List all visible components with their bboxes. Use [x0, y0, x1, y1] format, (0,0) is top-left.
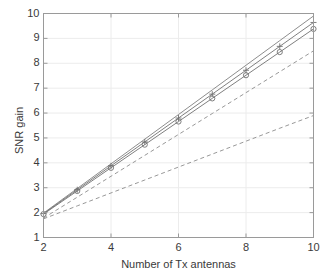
y-tick-label: 2: [33, 207, 39, 218]
marker-plus: [277, 43, 283, 49]
y-tick-label: 10: [27, 8, 39, 19]
snr-gain-chart: 12345678910 246810 SNR gain Number of Tx…: [0, 0, 335, 276]
x-tick-label: 2: [40, 242, 46, 253]
y-tick-label: 6: [33, 107, 39, 118]
y-tick-label: 3: [33, 182, 39, 193]
x-tick-label: 6: [175, 242, 181, 253]
x-tick-label: 10: [307, 242, 319, 253]
y-axis-label: SNR gain: [14, 106, 25, 153]
x-axis-label: Number of Tx antennas: [121, 259, 236, 270]
chart-canvas: [0, 0, 335, 276]
y-tick-label: 5: [33, 132, 39, 143]
y-tick-label: 1: [33, 232, 39, 243]
x-tick-label: 8: [243, 242, 249, 253]
y-tick-label: 9: [33, 32, 39, 43]
y-tick-label: 4: [33, 157, 39, 168]
x-tick-label: 4: [108, 242, 114, 253]
y-tick-label: 8: [33, 57, 39, 68]
grid-lines: [44, 14, 314, 238]
y-tick-label: 7: [33, 82, 39, 93]
